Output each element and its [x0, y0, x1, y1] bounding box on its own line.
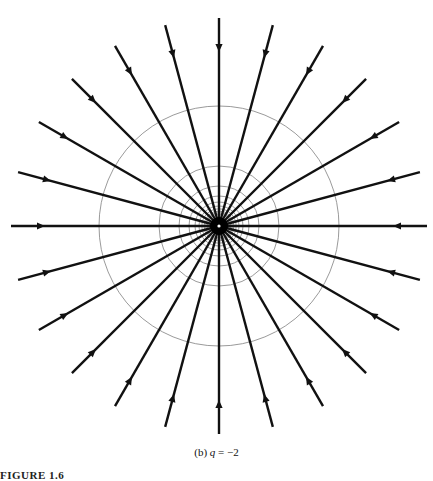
point-charge [210, 217, 228, 235]
caption-label: (b) [194, 446, 207, 458]
arrowhead-icon [37, 222, 45, 229]
arrowhead-icon [215, 400, 222, 408]
caption-equals: = [218, 446, 224, 458]
arrowhead-icon [215, 44, 222, 52]
arrowhead-icon [393, 222, 401, 229]
clipped-figure-heading: FIGURE 1.6 [0, 469, 64, 479]
caption-variable: q [210, 446, 216, 458]
charge-center-dot [217, 224, 220, 227]
figure-caption: (b) q = −2 [0, 446, 433, 458]
caption-value: −2 [227, 446, 239, 458]
